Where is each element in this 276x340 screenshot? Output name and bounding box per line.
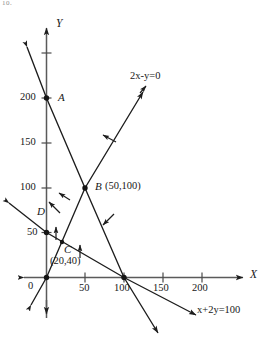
equation-label-2x-y-0: 2x-y=0 <box>130 71 160 82</box>
point-E <box>121 275 126 280</box>
point-label-B: B <box>95 181 102 192</box>
line-2x-y-0 <box>31 92 143 305</box>
direction-arrow-5 <box>59 193 70 200</box>
y-tick-label-50: 50 <box>27 227 38 238</box>
line-x-2y-100 <box>9 203 196 315</box>
point-D <box>44 230 49 235</box>
figure-canvas <box>0 0 276 340</box>
y-axis-label: Y <box>56 18 62 30</box>
point-label-A: A <box>58 92 65 103</box>
x-tick-label-100: 100 <box>114 283 130 294</box>
direction-arrow-4 <box>103 214 114 225</box>
direction-arrow-7 <box>140 86 146 93</box>
y-axis <box>42 28 52 318</box>
x-tick-label-150: 150 <box>153 283 169 294</box>
y-tick-label-200: 200 <box>20 92 36 103</box>
equation-label-x-2y-100: x+2y=100 <box>197 305 240 316</box>
point-label-C: C <box>64 244 71 255</box>
x-tick-label-200: 200 <box>192 283 208 294</box>
coordinate-geometry-figure: 10. Y X 0 200 150 100 50 50 100 150 200 … <box>0 0 276 340</box>
point-B <box>82 185 87 190</box>
y-tick-label-150: 150 <box>20 137 36 148</box>
point-coords-B: (50,100) <box>105 181 141 192</box>
x-tick-label-50: 50 <box>79 283 90 294</box>
point-A <box>44 95 49 100</box>
x-axis <box>24 273 243 283</box>
point-label-D: D <box>37 206 45 217</box>
x-axis-label: X <box>250 269 257 281</box>
direction-arrow-1 <box>49 202 60 213</box>
point-origin <box>44 275 49 280</box>
direction-arrow-6 <box>103 135 116 142</box>
y-tick-label-100: 100 <box>20 182 36 193</box>
figure-corner-mark: 10. <box>2 0 12 7</box>
point-coords-C: (20,40) <box>50 256 81 267</box>
origin-label: 0 <box>28 281 33 292</box>
